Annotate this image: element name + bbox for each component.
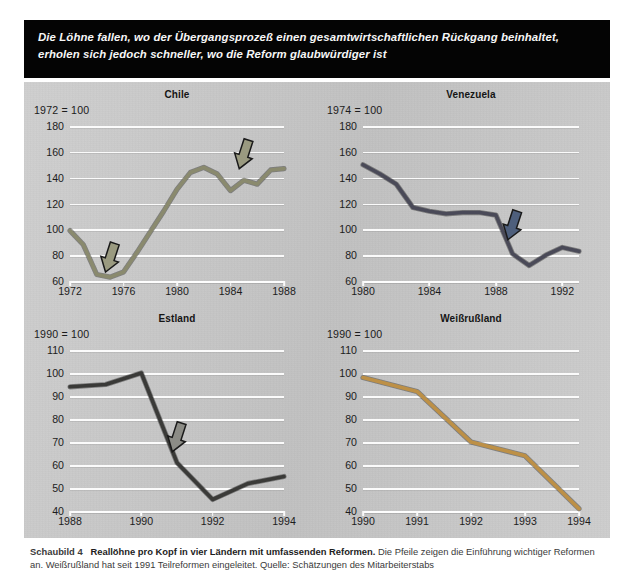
series-layer-chile bbox=[70, 126, 284, 281]
x-axis-line bbox=[70, 511, 284, 513]
y-axis-tick-label: 100 bbox=[339, 367, 357, 379]
figure-page: Die Löhne fallen, wo der Übergangsprozeß… bbox=[0, 0, 630, 580]
y-axis-tick-label: 80 bbox=[345, 413, 357, 425]
x-axis-tick-label: 1992 bbox=[201, 515, 225, 527]
y-axis-tick-label: 80 bbox=[345, 249, 357, 261]
y-axis-tick-label: 50 bbox=[345, 482, 357, 494]
arrow-1991-icon bbox=[164, 420, 191, 454]
x-axis-tick-label: 1990 bbox=[130, 515, 154, 527]
chart-title-venezuela: Venezuela bbox=[363, 89, 579, 100]
y-axis-tick-label: 70 bbox=[345, 436, 357, 448]
chart-base-note-weissrussland: 1990 = 100 bbox=[327, 328, 382, 340]
x-axis-tick-label: 1990 bbox=[351, 515, 375, 527]
series-layer-estland bbox=[70, 350, 284, 511]
caption-figure-label: Schaubild 4 bbox=[30, 546, 83, 557]
y-axis-tick-label: 60 bbox=[52, 459, 64, 471]
x-axis-line bbox=[363, 281, 579, 283]
series-layer-weissrussland bbox=[363, 350, 579, 511]
x-axis-tick-label: 1980 bbox=[351, 285, 375, 297]
chart-base-note-chile: 1972 = 100 bbox=[34, 104, 89, 116]
y-axis-tick-label: 80 bbox=[52, 413, 64, 425]
y-axis-tick-label: 140 bbox=[339, 172, 357, 184]
x-axis-tick-label: 1993 bbox=[513, 515, 537, 527]
plot-area-chile: 608010012014016018019721976198019841988 bbox=[70, 126, 284, 281]
x-axis-tick-label: 1994 bbox=[272, 515, 296, 527]
arrow-body bbox=[230, 137, 257, 171]
charts-container: Chile1972 = 1006080100120140160180197219… bbox=[24, 82, 610, 538]
y-axis-tick-label: 120 bbox=[46, 198, 64, 210]
y-axis-tick-label: 60 bbox=[345, 459, 357, 471]
y-axis-tick-label: 80 bbox=[52, 249, 64, 261]
y-axis-tick-label: 180 bbox=[339, 120, 357, 132]
chart-title-weissrussland: Weißrußland bbox=[363, 313, 579, 324]
plot-area-weissrussland: 40506070809010011019901991199219931994 bbox=[363, 350, 579, 511]
chart-panel-chile: Chile1972 = 1006080100120140160180197219… bbox=[24, 82, 317, 310]
headline-line-2: erholen sich jedoch schneller, wo die Re… bbox=[38, 48, 387, 60]
plot-area-venezuela: 60801001201401601801980198419881992 bbox=[363, 126, 579, 281]
arrow-body bbox=[97, 241, 124, 275]
x-axis-tick-label: 1988 bbox=[484, 285, 508, 297]
chart-title-chile: Chile bbox=[70, 89, 284, 100]
figure-caption: Schaubild 4 Reallöhne pro Kopf in vier L… bbox=[30, 545, 608, 572]
headline-banner: Die Löhne fallen, wo der Übergangsprozeß… bbox=[24, 20, 610, 78]
x-axis-tick-label: 1984 bbox=[418, 285, 442, 297]
y-axis-tick-label: 160 bbox=[339, 146, 357, 158]
y-axis-tick-label: 160 bbox=[46, 146, 64, 158]
y-axis-tick-label: 140 bbox=[46, 172, 64, 184]
y-axis-tick-label: 70 bbox=[52, 436, 64, 448]
arrow-body bbox=[164, 420, 191, 454]
series-line-shadow bbox=[363, 165, 579, 266]
y-axis-tick-label: 110 bbox=[340, 344, 357, 356]
arrow-1975-icon bbox=[97, 241, 124, 275]
y-axis-tick-label: 50 bbox=[52, 482, 64, 494]
arrow-1985-icon bbox=[230, 137, 257, 171]
x-axis-tick-label: 1988 bbox=[272, 285, 296, 297]
chart-title-estland: Estland bbox=[70, 313, 284, 324]
y-axis-tick-label: 90 bbox=[52, 390, 64, 402]
chart-base-note-venezuela: 1974 = 100 bbox=[327, 104, 382, 116]
chart-panel-weissrussland: Weißrußland1990 = 1004050607080901001101… bbox=[311, 306, 610, 538]
plot-area-estland: 4050607080901001101988199019921994 bbox=[70, 350, 284, 511]
x-axis-tick-label: 1980 bbox=[165, 285, 189, 297]
chart-panel-estland: Estland1990 = 10040506070809010011019881… bbox=[24, 306, 317, 538]
x-axis-tick-label: 1988 bbox=[58, 515, 82, 527]
headline-line-1: Die Löhne fallen, wo der Übergangsprozeß… bbox=[38, 31, 559, 43]
x-axis-tick-label: 1992 bbox=[459, 515, 483, 527]
x-axis-tick-label: 1972 bbox=[58, 285, 82, 297]
series-layer-venezuela bbox=[363, 126, 579, 281]
headline-text: Die Löhne fallen, wo der Übergangsprozeß… bbox=[38, 29, 598, 62]
y-axis-tick-label: 100 bbox=[46, 367, 64, 379]
chart-panel-venezuela: Venezuela1974 = 100608010012014016018019… bbox=[311, 82, 610, 310]
y-axis-tick-label: 100 bbox=[339, 223, 357, 235]
y-axis-tick-label: 90 bbox=[345, 390, 357, 402]
x-axis-tick-label: 1991 bbox=[405, 515, 429, 527]
y-axis-tick-label: 100 bbox=[46, 223, 64, 235]
x-axis-tick-label: 1994 bbox=[567, 515, 591, 527]
series-line-weissrussland bbox=[363, 378, 579, 509]
chart-base-note-estland: 1990 = 100 bbox=[34, 328, 89, 340]
x-axis-tick-label: 1984 bbox=[219, 285, 243, 297]
y-axis-tick-label: 120 bbox=[339, 198, 357, 210]
x-axis-tick-label: 1992 bbox=[551, 285, 575, 297]
caption-title: Reallöhne pro Kopf in vier Ländern mit u… bbox=[90, 546, 375, 557]
y-axis-tick-label: 180 bbox=[46, 120, 64, 132]
x-axis-tick-label: 1976 bbox=[112, 285, 136, 297]
y-axis-tick-label: 110 bbox=[47, 344, 64, 356]
